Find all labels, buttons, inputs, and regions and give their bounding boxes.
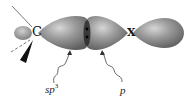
carbon-atom-label: C xyxy=(32,24,42,39)
node-dot-2 xyxy=(86,36,89,39)
sp3-back-lobe xyxy=(14,26,32,40)
sp3-label: sp3 xyxy=(45,82,58,95)
sp3-lobe xyxy=(38,16,90,50)
p-lobe-front xyxy=(84,16,128,50)
sp3-arrow xyxy=(54,52,70,83)
orbital-overlap-diagram: C X sp3 p xyxy=(0,0,194,104)
x-atom-label: X xyxy=(127,26,136,39)
sp3-arrowhead xyxy=(67,50,72,55)
wedge-bond xyxy=(20,40,33,63)
bond-line-up xyxy=(12,6,32,27)
p-arrow xyxy=(103,52,122,82)
node-dot-1 xyxy=(86,28,89,31)
overlap-node xyxy=(84,20,91,46)
p-label: p xyxy=(120,84,126,96)
orbital-svg xyxy=(0,0,194,104)
p-lobe-back xyxy=(133,18,184,48)
sp3-label-base: sp xyxy=(45,83,55,95)
sp3-label-exponent: 3 xyxy=(55,82,59,90)
p-arrowhead xyxy=(100,50,105,55)
